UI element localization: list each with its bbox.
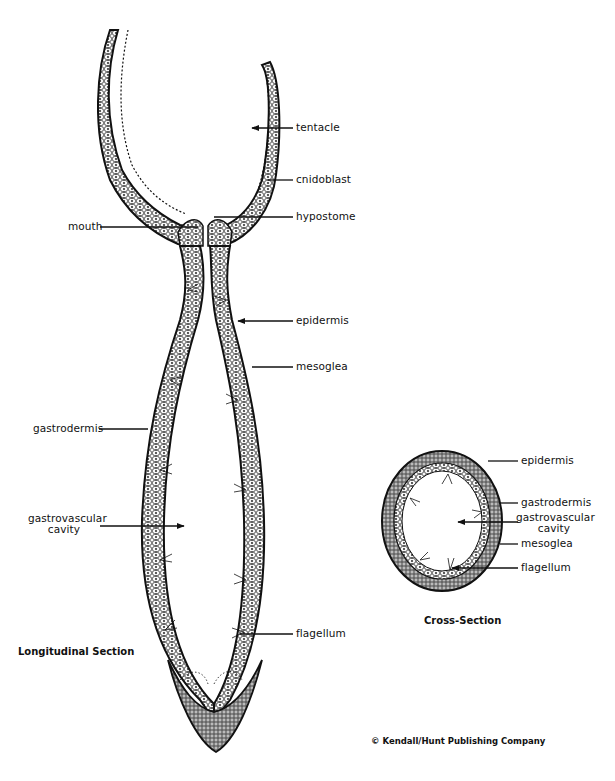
label-cnidoblast: cnidoblast bbox=[296, 174, 351, 185]
diagram-canvas: tentacle cnidoblast hypostome mouth epid… bbox=[0, 0, 615, 781]
longitudinal-section-drawing bbox=[98, 30, 279, 752]
cross-label-mesoglea: mesoglea bbox=[521, 538, 573, 549]
cross-label-flagellum: flagellum bbox=[521, 562, 571, 573]
label-flagellum: flagellum bbox=[296, 628, 346, 639]
cross-label-gastrodermis: gastrodermis bbox=[521, 497, 591, 508]
cross-section-title: Cross-Section bbox=[424, 615, 501, 626]
cross-label-gastrovascular-line2: cavity bbox=[516, 523, 592, 534]
cross-label-epidermis: epidermis bbox=[521, 455, 574, 466]
longitudinal-section-title: Longitudinal Section bbox=[18, 646, 134, 657]
label-mouth: mouth bbox=[68, 221, 103, 232]
label-mesoglea: mesoglea bbox=[296, 361, 348, 372]
label-epidermis: epidermis bbox=[296, 315, 349, 326]
label-hypostome: hypostome bbox=[296, 211, 356, 222]
hydra-illustration bbox=[0, 0, 615, 781]
label-gastrovascular-cavity: gastrovascular cavity bbox=[28, 513, 100, 535]
publisher-credit: © Kendall/Hunt Publishing Company bbox=[371, 736, 545, 746]
label-tentacle: tentacle bbox=[296, 122, 340, 133]
label-gastrodermis: gastrodermis bbox=[33, 423, 103, 434]
label-gastrovascular-line2: cavity bbox=[28, 524, 100, 535]
cross-label-gastrovascular-cavity: gastrovascular cavity bbox=[516, 512, 592, 534]
cross-section-drawing bbox=[382, 451, 502, 591]
